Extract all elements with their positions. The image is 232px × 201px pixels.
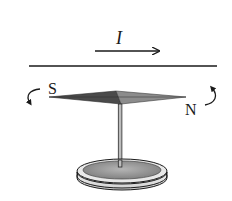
south-rotation-arrow-icon (28, 89, 40, 103)
oersted-experiment-diagram: I S N (0, 0, 232, 201)
pivot-stem (118, 104, 122, 166)
pivot-stem-foot (118, 160, 122, 167)
needle-north-half (116, 91, 186, 104)
needle-south-half (49, 91, 121, 104)
north-rotation-arrow-icon (205, 88, 216, 105)
south-pole-label: S (48, 80, 57, 97)
current-label: I (115, 28, 123, 48)
north-pole-label: N (185, 101, 197, 118)
